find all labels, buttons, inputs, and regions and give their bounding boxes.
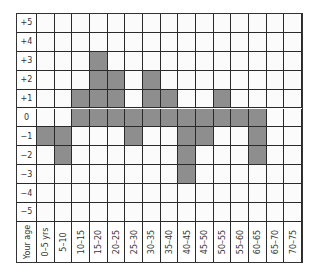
- column-label-text: 65–70: [270, 230, 279, 254]
- grid-cell: [214, 203, 232, 222]
- grid-cell: [72, 184, 90, 203]
- grid-cell-filled: [72, 109, 90, 128]
- grid-cell: [125, 90, 143, 109]
- grid-cell: [125, 165, 143, 184]
- grid-cell: [161, 14, 179, 33]
- grid-cell: [37, 146, 55, 165]
- grid-cell: [196, 14, 214, 33]
- grid-cell: [178, 14, 196, 33]
- grid-cell: [108, 146, 126, 165]
- grid-cell: [108, 127, 126, 146]
- grid-cell: [284, 52, 302, 71]
- grid-cell: [72, 14, 90, 33]
- grid-cell: [55, 71, 73, 90]
- grid-cell: [267, 90, 285, 109]
- grid-cell: [231, 33, 249, 52]
- grid-cell: [55, 109, 73, 128]
- grid-cell: [249, 71, 267, 90]
- grid-cell: [72, 71, 90, 90]
- grid-cell-filled: [143, 109, 161, 128]
- grid-cell-filled: [90, 52, 108, 71]
- grid-cell: [37, 52, 55, 71]
- grid-cell: [284, 165, 302, 184]
- grid-cell: [55, 165, 73, 184]
- grid-cell-filled: [90, 90, 108, 109]
- column-label-text: 10–15: [76, 230, 85, 254]
- grid-cell: [37, 14, 55, 33]
- grid-cell: [249, 165, 267, 184]
- grid-cell: [37, 165, 55, 184]
- row-label: −2: [17, 146, 37, 165]
- row-label: +3: [17, 52, 37, 71]
- grid-cell: [231, 184, 249, 203]
- grid-cell: [284, 33, 302, 52]
- grid-cell: [214, 127, 232, 146]
- column-label: 65–70: [267, 222, 285, 262]
- column-label: 10–15: [72, 222, 90, 262]
- row-label: −4: [17, 184, 37, 203]
- grid-cell: [72, 165, 90, 184]
- grid-cell: [143, 127, 161, 146]
- grid-cell: [37, 184, 55, 203]
- grid-cell-filled: [90, 71, 108, 90]
- grid-cell: [143, 165, 161, 184]
- grid-cell-filled: [249, 127, 267, 146]
- row-label: 0: [17, 109, 37, 128]
- grid-cell: [267, 127, 285, 146]
- x-axis-title: Your age: [17, 222, 37, 262]
- grid-cell: [267, 14, 285, 33]
- grid-cell: [55, 90, 73, 109]
- grid-cell: [125, 52, 143, 71]
- grid-cell: [108, 14, 126, 33]
- grid-cell: [267, 33, 285, 52]
- grid-cell: [249, 184, 267, 203]
- grid-cell: [267, 146, 285, 165]
- column-label: 30–35: [143, 222, 161, 262]
- grid-cell: [90, 203, 108, 222]
- grid-cell-filled: [161, 90, 179, 109]
- column-label: 5–10: [55, 222, 73, 262]
- column-label-text: 25–30: [129, 230, 138, 254]
- grid-cell: [108, 184, 126, 203]
- column-label: 15–20: [90, 222, 108, 262]
- grid-cell: [178, 52, 196, 71]
- grid-cell: [249, 90, 267, 109]
- grid-cell: [196, 52, 214, 71]
- grid-cell-filled: [125, 109, 143, 128]
- grid-cell: [161, 165, 179, 184]
- grid-cell: [90, 184, 108, 203]
- grid-cell: [196, 71, 214, 90]
- grid-cell: [125, 146, 143, 165]
- grid-cell-filled: [55, 127, 73, 146]
- grid-cell: [267, 203, 285, 222]
- grid-cell-filled: [178, 146, 196, 165]
- grid-cell: [284, 127, 302, 146]
- grid-cell: [214, 184, 232, 203]
- grid-cell: [249, 203, 267, 222]
- grid-cell-filled: [55, 146, 73, 165]
- column-label: 0–5 yrs: [37, 222, 55, 262]
- column-label-text: 30–35: [147, 230, 156, 254]
- grid-cell: [231, 146, 249, 165]
- grid-cell: [161, 203, 179, 222]
- column-label-text: 5–10: [58, 232, 67, 251]
- grid-cell: [249, 52, 267, 71]
- grid-cell: [55, 203, 73, 222]
- column-label-text: 35–40: [164, 230, 173, 254]
- row-label: +1: [17, 90, 37, 109]
- grid-cell-filled: [214, 90, 232, 109]
- grid-cell: [231, 165, 249, 184]
- grid-cell: [284, 184, 302, 203]
- grid-cell-filled: [143, 90, 161, 109]
- grid-cell: [161, 146, 179, 165]
- grid-cell: [108, 52, 126, 71]
- column-label: 60–65: [249, 222, 267, 262]
- grid-cell: [196, 90, 214, 109]
- column-label-text: 60–65: [253, 230, 262, 254]
- grid-cell: [72, 146, 90, 165]
- grid-cell: [72, 127, 90, 146]
- grid-cell-filled: [196, 127, 214, 146]
- grid-cell: [196, 165, 214, 184]
- grid-cell: [267, 71, 285, 90]
- grid-cell: [196, 146, 214, 165]
